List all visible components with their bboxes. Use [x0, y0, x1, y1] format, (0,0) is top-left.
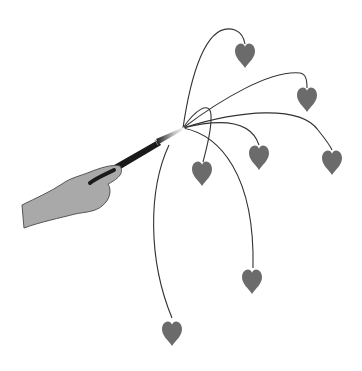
stem-top [183, 29, 245, 128]
stem-lower [183, 128, 253, 268]
hand [22, 165, 122, 228]
heart-icon [192, 161, 212, 186]
heart-icon [242, 269, 262, 294]
hearts [162, 43, 342, 346]
heart-icon [297, 87, 317, 112]
heart-icon [235, 43, 255, 68]
magic-wand-hearts-illustration [0, 0, 362, 371]
heart-icon [322, 150, 342, 175]
stem-bottom [154, 145, 172, 318]
heart-icon [249, 145, 269, 170]
stem-right [183, 113, 332, 150]
stem-upper-right [183, 73, 307, 128]
heart-icon [162, 321, 182, 346]
stem-left [183, 108, 211, 162]
stem-middle [183, 123, 259, 145]
illustration-canvas: hand holding magic wand sprouting hearts… [0, 0, 362, 371]
